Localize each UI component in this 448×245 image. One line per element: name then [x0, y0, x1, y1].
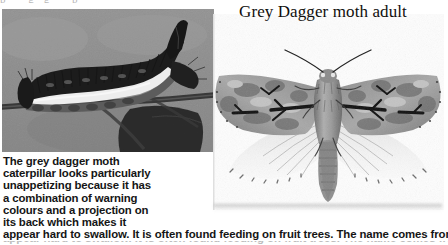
body-text-full-width: appear hard to swallow. It is often foun…: [3, 228, 448, 240]
moth-image-graphic: [213, 14, 444, 210]
grey-dagger-moth-adult-photo: [213, 14, 444, 210]
figure-caption-title: Grey Dagger moth adult: [239, 2, 407, 22]
body-line: colours and a projection on: [3, 204, 199, 216]
moth-photo-shadow: [214, 204, 442, 213]
grey-dagger-moth-caterpillar-photo: [2, 9, 214, 152]
body-line: appear hard to swallow. It is often foun…: [3, 241, 448, 244]
caterpillar-image-graphic: [2, 9, 214, 152]
body-line: The grey dagger moth: [3, 155, 199, 167]
page-root: p gg p: [0, 0, 448, 245]
body-line: unappetizing because it has: [3, 179, 199, 191]
clipped-bottom-text: appear hard to swallow. It is often foun…: [3, 241, 448, 245]
body-line: appear hard to swallow. It is often foun…: [3, 228, 448, 240]
body-line: caterpillar looks particularly: [3, 167, 199, 179]
body-line: its back which makes it: [3, 216, 199, 228]
body-line: a combination of warning: [3, 192, 199, 204]
body-text-column: The grey dagger moth caterpillar looks p…: [3, 155, 199, 228]
